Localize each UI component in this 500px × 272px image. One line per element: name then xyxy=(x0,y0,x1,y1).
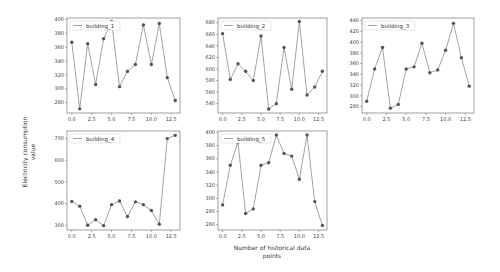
legend: building_1 xyxy=(70,21,120,30)
plot-frame xyxy=(218,131,327,230)
x-axis-label: Number of historical data xyxy=(234,244,311,251)
y-tick-label: 400 xyxy=(349,39,359,45)
data-point xyxy=(305,93,308,96)
y-tick-label: 340 xyxy=(205,169,215,175)
data-point xyxy=(150,209,153,212)
legend: building_3 xyxy=(365,21,415,30)
legend-label: building_4 xyxy=(86,136,115,143)
data-point xyxy=(174,99,177,102)
data-point xyxy=(321,224,324,227)
x-tick-label: 0.0 xyxy=(68,233,76,239)
y-tick-label: 320 xyxy=(349,82,359,88)
x-tick-label: 12.5 xyxy=(166,233,177,239)
legend-label: building_2 xyxy=(237,23,265,30)
x-tick-label: 10.0 xyxy=(294,116,305,122)
data-point xyxy=(174,134,177,137)
x-tick-label: 5.0 xyxy=(402,116,410,122)
x-tick-label: 0.0 xyxy=(68,116,76,122)
y-tick-label: 400 xyxy=(54,200,64,206)
data-point xyxy=(282,46,285,49)
data-point xyxy=(134,200,137,203)
y-tick-label: 280 xyxy=(54,99,64,105)
x-tick-label: 2.5 xyxy=(238,233,246,239)
x-tick-label: 7.5 xyxy=(127,233,135,239)
y-tick-label: 600 xyxy=(205,66,215,72)
x-tick-label: 2.5 xyxy=(238,116,246,122)
data-point xyxy=(298,20,301,23)
data-point xyxy=(70,41,73,44)
legend-label: building_3 xyxy=(381,23,410,30)
plot-frame xyxy=(362,18,474,113)
x-tick-label: 7.5 xyxy=(127,116,135,122)
data-point xyxy=(275,133,278,136)
data-point xyxy=(221,203,224,206)
y-tick-label: 500 xyxy=(54,179,64,185)
data-point xyxy=(126,70,129,73)
legend-label: building_5 xyxy=(237,136,266,143)
y-tick-label: 420 xyxy=(349,28,359,34)
data-point xyxy=(267,161,270,164)
x-tick-label: 7.5 xyxy=(276,233,284,239)
x-tick-label: 0.0 xyxy=(219,116,227,122)
y-tick-label: 320 xyxy=(54,72,64,78)
data-point xyxy=(267,107,270,110)
x-tick-label: 5.0 xyxy=(108,116,116,122)
data-point xyxy=(412,65,415,68)
y-tick-label: 580 xyxy=(205,77,215,83)
data-point xyxy=(221,32,224,35)
y-tick-label: 660 xyxy=(205,31,215,37)
x-tick-label: 12.5 xyxy=(166,116,177,122)
data-point xyxy=(305,133,308,136)
x-tick-label: 5.0 xyxy=(108,233,116,239)
data-point xyxy=(142,203,145,206)
data-point xyxy=(94,218,97,221)
legend-label: building_1 xyxy=(86,23,114,30)
data-point xyxy=(365,99,368,102)
y-tick-label: 300 xyxy=(54,222,64,228)
y-tick-label: 380 xyxy=(205,142,215,148)
subplot-grid: 2803003203403603804000.02.55.07.510.012.… xyxy=(54,16,474,239)
data-point xyxy=(134,63,137,66)
data-point xyxy=(102,37,105,40)
plot-frame xyxy=(67,18,180,113)
data-point xyxy=(252,79,255,82)
data-point xyxy=(460,56,463,59)
chart-figure: 2803003203403603804000.02.55.07.510.012.… xyxy=(0,0,500,272)
data-point xyxy=(86,42,89,45)
y-tick-label: 600 xyxy=(54,157,64,163)
x-tick-label: 2.5 xyxy=(382,116,390,122)
data-point xyxy=(436,68,439,71)
y-tick-label: 260 xyxy=(205,221,215,227)
y-tick-label: 340 xyxy=(54,58,64,64)
data-point xyxy=(70,200,73,203)
y-tick-label: 380 xyxy=(349,50,359,56)
x-tick-label: 7.5 xyxy=(422,116,430,122)
data-point xyxy=(86,224,89,227)
data-point xyxy=(259,164,262,167)
data-point xyxy=(321,70,324,73)
data-point xyxy=(259,34,262,37)
y-tick-label: 680 xyxy=(205,19,215,25)
x-tick-label: 10.0 xyxy=(146,116,157,122)
y-tick-label: 360 xyxy=(54,44,64,50)
x-tick-label: 7.5 xyxy=(276,116,284,122)
x-tick-label: 10.0 xyxy=(440,116,451,122)
data-point xyxy=(252,207,255,210)
data-point xyxy=(444,49,447,52)
data-point xyxy=(118,85,121,88)
data-point xyxy=(290,154,293,157)
data-point xyxy=(468,84,471,87)
y-tick-label: 380 xyxy=(54,30,64,36)
data-point xyxy=(102,224,105,227)
x-tick-label: 10.0 xyxy=(294,233,305,239)
data-point xyxy=(404,67,407,70)
x-tick-label: 0.0 xyxy=(363,116,371,122)
data-point xyxy=(150,63,153,66)
x-tick-label: 2.5 xyxy=(88,233,96,239)
data-point xyxy=(166,137,169,140)
data-point xyxy=(229,78,232,81)
legend: building_2 xyxy=(221,21,271,30)
data-point xyxy=(126,215,129,218)
data-point xyxy=(166,76,169,79)
y-tick-label: 360 xyxy=(349,60,359,66)
